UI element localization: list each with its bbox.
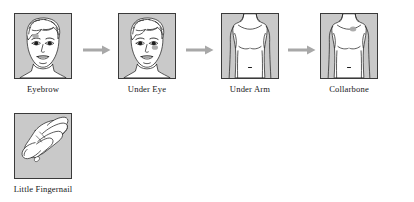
panel-under-arm[interactable] (221, 13, 279, 79)
tapping-marker-collarbone (350, 26, 357, 31)
step-eyebrow[interactable]: Eyebrow (14, 13, 72, 95)
step-collarbone[interactable]: Collarbone (320, 13, 378, 95)
panel-little-fingernail[interactable] (14, 113, 72, 179)
tapping-marker-under-eye (152, 45, 158, 50)
panel-eyebrow[interactable] (14, 13, 72, 79)
panel-collarbone[interactable] (320, 13, 378, 79)
hand-icon (15, 114, 71, 178)
arrow-right-icon-3 (288, 44, 316, 56)
arrow-right-icon-1 (83, 44, 111, 56)
female-face-front-icon (15, 14, 71, 78)
panel-under-eye[interactable] (118, 13, 176, 79)
torso-front-icon (321, 14, 377, 78)
step-under-eye[interactable]: Under Eye (118, 13, 176, 95)
step-label-under-eye: Under Eye (104, 84, 190, 95)
tapping-marker-eyebrow (32, 34, 38, 38)
torso-front-icon (222, 14, 278, 78)
step-label-eyebrow: Eyebrow (14, 84, 72, 95)
arrow-right-icon-2 (186, 44, 214, 56)
step-label-under-arm: Under Arm (207, 84, 293, 95)
step-label-collarbone: Collarbone (306, 84, 392, 95)
step-little-fingernail[interactable]: Little Fingernail (14, 113, 72, 195)
female-face-front-icon (119, 14, 175, 78)
step-label-little-fingernail: Little Fingernail (0, 184, 86, 195)
tapping-sequence-diagram: Eyebrow (0, 0, 414, 202)
step-under-arm[interactable]: Under Arm (221, 13, 279, 95)
